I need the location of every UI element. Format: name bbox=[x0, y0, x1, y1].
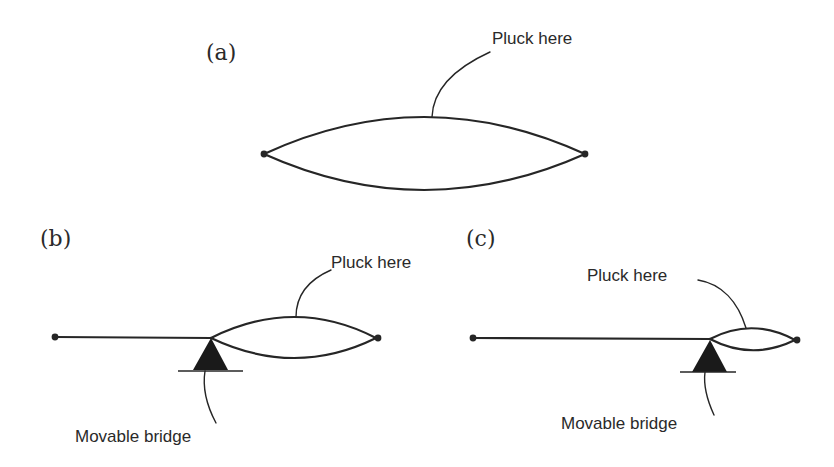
panel-a: (a) Pluck here bbox=[206, 29, 588, 190]
panel-b-pluck-label: Pluck here bbox=[331, 253, 411, 272]
panel-c: (c) Pluck here Movable bridge bbox=[466, 226, 800, 433]
diagram-svg: (a) Pluck here (b) Pluck here Movable br… bbox=[0, 0, 834, 467]
panel-c-pluck-label: Pluck here bbox=[587, 266, 667, 285]
panel-a-string-upper bbox=[264, 117, 585, 154]
panel-c-string-fixed-segment bbox=[473, 338, 710, 339]
panel-a-left-end-node-icon bbox=[261, 151, 268, 158]
panel-b-left-end-node-icon bbox=[52, 334, 59, 341]
panel-b-right-end-node-icon bbox=[375, 335, 382, 342]
panel-b: (b) Pluck here Movable bridge bbox=[40, 226, 411, 446]
panel-a-pluck-label: Pluck here bbox=[492, 29, 572, 48]
panel-c-left-end-node-icon bbox=[470, 335, 477, 342]
string-vibration-diagram: (a) Pluck here (b) Pluck here Movable br… bbox=[0, 0, 834, 467]
panel-c-pluck-leader-line bbox=[698, 280, 746, 328]
panel-b-bridge-leader-line bbox=[204, 371, 216, 423]
panel-b-pluck-leader-line bbox=[296, 270, 331, 317]
panel-b-bridge-label: Movable bridge bbox=[75, 427, 191, 446]
panel-a-pluck-leader-line bbox=[432, 52, 490, 117]
panel-a-label: (a) bbox=[206, 40, 236, 65]
panel-c-string-upper bbox=[710, 328, 795, 340]
panel-c-string-lower bbox=[710, 339, 795, 350]
panel-b-string-fixed-segment bbox=[55, 337, 211, 338]
panel-c-bridge-leader-line bbox=[705, 372, 714, 415]
panel-c-bridge-label: Movable bridge bbox=[561, 414, 677, 433]
panel-b-string-lower bbox=[211, 338, 376, 358]
panel-b-label: (b) bbox=[40, 226, 71, 251]
panel-c-right-end-node-icon bbox=[794, 337, 801, 344]
panel-a-right-end-node-icon bbox=[582, 151, 589, 158]
panel-b-string-upper bbox=[211, 317, 376, 338]
panel-c-label: (c) bbox=[466, 226, 496, 251]
panel-a-string-lower bbox=[264, 154, 585, 190]
